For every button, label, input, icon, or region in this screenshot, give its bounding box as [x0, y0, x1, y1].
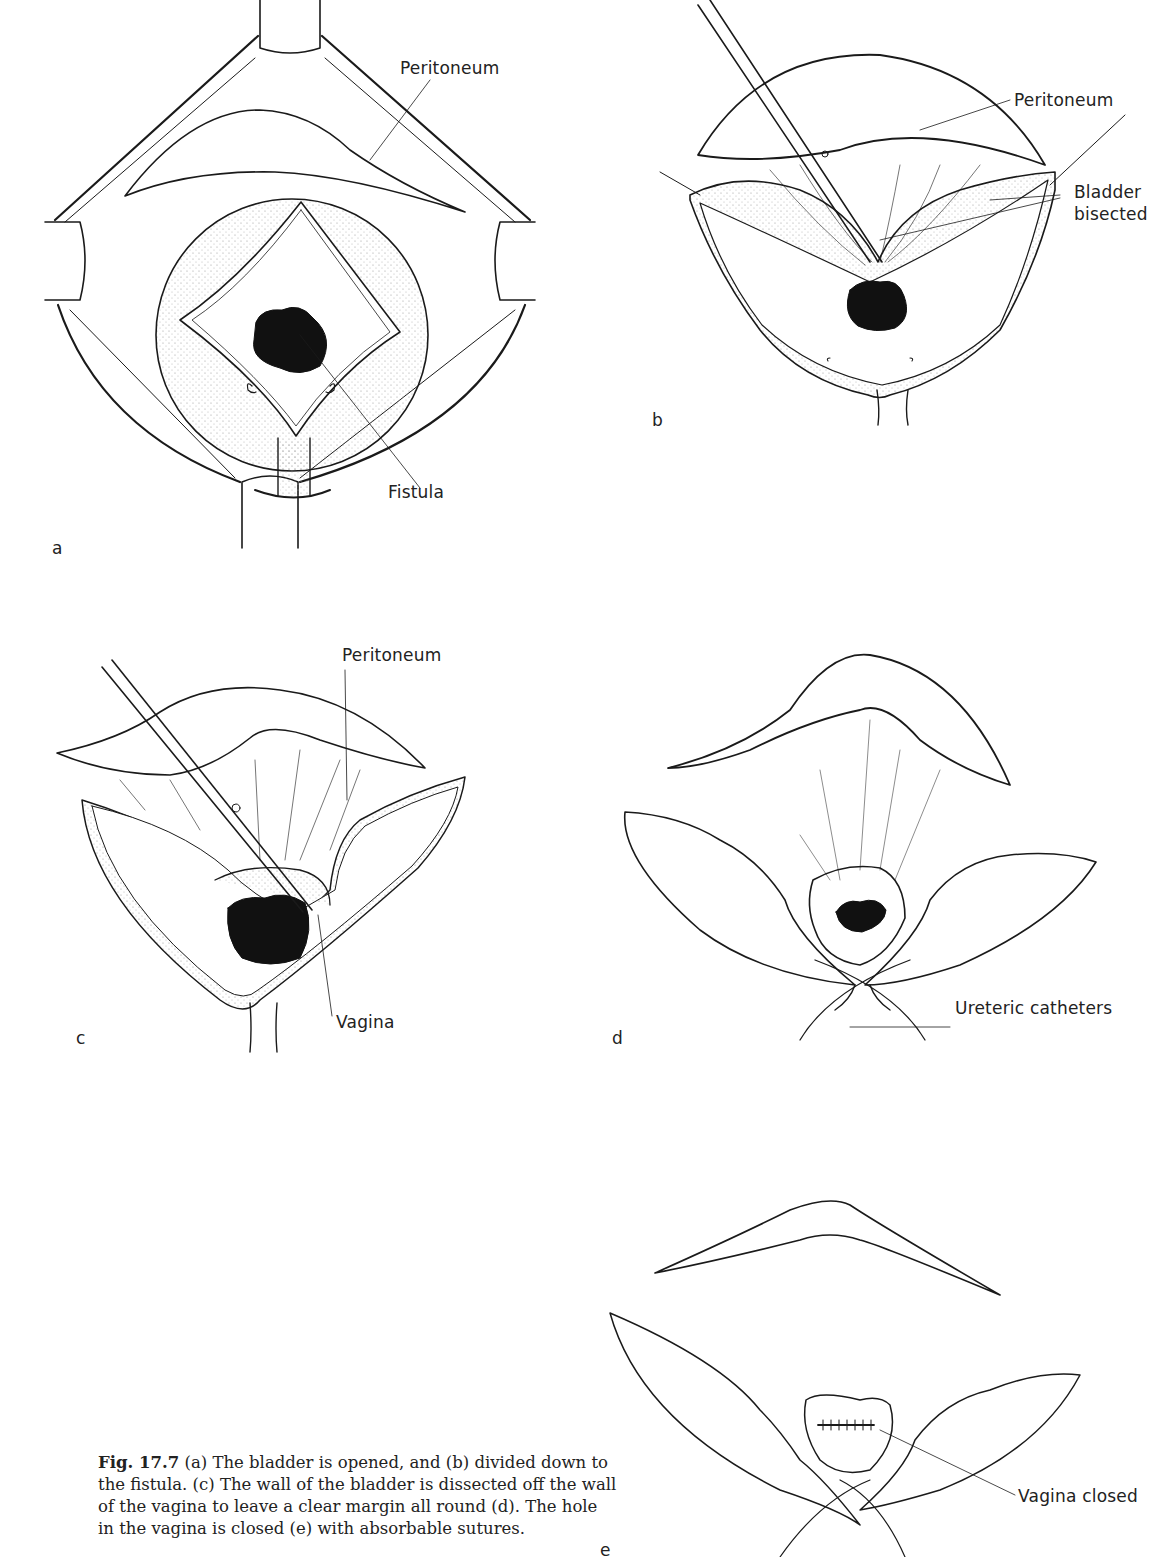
- label-ureteric-catheters: Ureteric catheters: [955, 998, 1112, 1018]
- figure-illustrations: [0, 0, 1171, 1557]
- label-peritoneum-b: Peritoneum: [1014, 90, 1113, 110]
- panel-b-drawing: [660, 0, 1125, 425]
- figure-caption: Fig. 17.7 (a) The bladder is opened, and…: [98, 1452, 618, 1540]
- label-vagina-closed: Vagina closed: [1018, 1486, 1138, 1506]
- label-fistula-a: Fistula: [388, 482, 444, 502]
- label-peritoneum-c: Peritoneum: [342, 645, 441, 665]
- panel-letter-b: b: [652, 410, 663, 430]
- panel-letter-c: c: [76, 1028, 85, 1048]
- label-bladder-b: Bladder: [1074, 182, 1141, 202]
- label-bisected-b: bisected: [1074, 204, 1148, 224]
- figure-caption-label: Fig. 17.7: [98, 1453, 179, 1472]
- panel-c-drawing: [57, 660, 465, 1052]
- panel-letter-a: a: [52, 538, 62, 558]
- panel-e-drawing: [610, 1201, 1080, 1557]
- label-peritoneum-a: Peritoneum: [400, 58, 499, 78]
- panel-letter-e: e: [600, 1540, 610, 1557]
- panel-d-drawing: [625, 655, 1096, 1040]
- panel-a-drawing: [45, 0, 535, 548]
- label-vagina-c: Vagina: [336, 1012, 395, 1032]
- panel-letter-d: d: [612, 1028, 623, 1048]
